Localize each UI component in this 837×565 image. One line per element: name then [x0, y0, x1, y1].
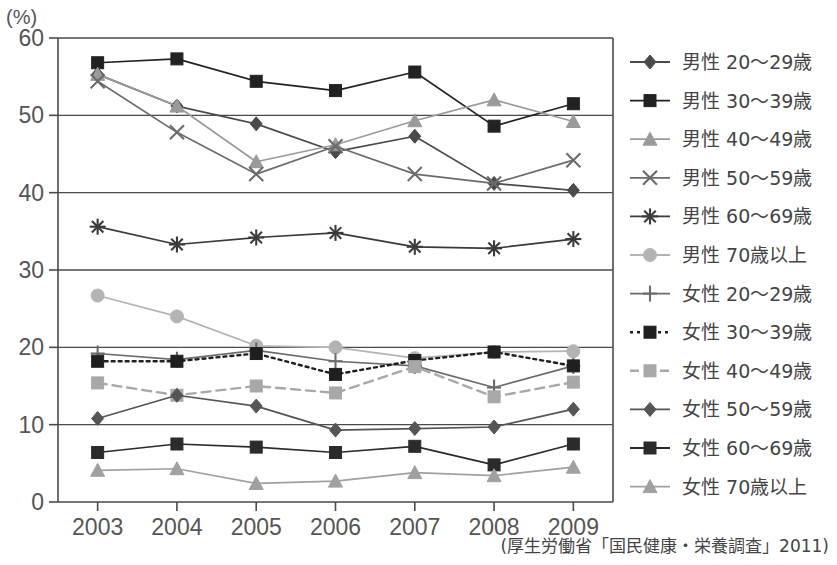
marker-asterisk: [565, 231, 581, 247]
y-tick-label-10: 10: [18, 412, 44, 438]
legend-item-4[interactable]: 男性 60〜69歳: [630, 205, 812, 227]
marker-square: [409, 361, 421, 373]
x-tick-label-2003: 2003: [72, 514, 123, 540]
marker-square: [488, 391, 500, 403]
marker-triangle: [487, 93, 501, 106]
y-tick-label-60: 60: [18, 25, 44, 51]
legend-item-0[interactable]: 男性 20〜29歳: [630, 51, 812, 73]
marker-circle: [329, 341, 342, 354]
marker-square: [250, 380, 262, 392]
marker-square: [644, 365, 656, 377]
marker-diamond: [92, 411, 104, 425]
series-1: [92, 53, 580, 132]
marker-square: [250, 441, 262, 453]
marker-square: [330, 85, 342, 97]
marker-asterisk: [642, 208, 658, 224]
legend-item-5[interactable]: 男性 70歳以上: [630, 244, 807, 266]
marker-diamond: [567, 402, 579, 416]
marker-asterisk: [169, 236, 185, 252]
marker-square: [250, 348, 262, 360]
marker-diamond: [567, 183, 579, 197]
marker-square: [330, 368, 342, 380]
marker-square: [330, 447, 342, 459]
legend-item-label: 女性 30〜39歳: [682, 321, 812, 343]
marker-asterisk: [90, 219, 106, 235]
series-10: [92, 438, 580, 471]
x-tick-label-2005: 2005: [231, 514, 282, 540]
series-11: [91, 460, 581, 489]
marker-square: [171, 53, 183, 65]
marker-asterisk: [328, 225, 344, 241]
legend: 男性 20〜29歳男性 30〜39歳男性 40〜49歳男性 50〜59歳男性 6…: [630, 51, 812, 498]
x-tick-label-2004: 2004: [151, 514, 202, 540]
marker-circle: [644, 249, 657, 262]
legend-item-2[interactable]: 男性 40〜49歳: [630, 128, 812, 150]
source-note: (厚生労働省「国民健康・栄養調査」2011): [500, 536, 829, 556]
chart-container: 0102030405060 20032004200520062007200820…: [0, 0, 837, 565]
marker-plus: [643, 286, 657, 302]
marker-square: [330, 387, 342, 399]
legend-item-label: 女性 20〜29歳: [682, 283, 812, 305]
marker-circle: [91, 289, 104, 302]
marker-diamond: [409, 129, 421, 143]
marker-square: [92, 447, 104, 459]
y-tick-label-20: 20: [18, 334, 44, 360]
marker-diamond: [488, 420, 500, 434]
marker-circle: [567, 345, 580, 358]
legend-item-3[interactable]: 男性 50〜59歳: [630, 167, 812, 189]
marker-square: [409, 66, 421, 78]
marker-square: [644, 95, 656, 107]
marker-square: [250, 75, 262, 87]
legend-item-10[interactable]: 女性 60〜69歳: [630, 437, 812, 459]
marker-asterisk: [486, 240, 502, 256]
y-tick-label-50: 50: [18, 102, 44, 128]
marker-square: [567, 360, 579, 372]
marker-square: [171, 438, 183, 450]
legend-item-label: 女性 50〜59歳: [682, 398, 812, 420]
marker-square: [567, 438, 579, 450]
marker-square: [171, 355, 183, 367]
marker-diamond: [409, 422, 421, 436]
legend-item-6[interactable]: 女性 20〜29歳: [630, 283, 812, 305]
legend-item-label: 女性 40〜49歳: [682, 360, 812, 382]
marker-square: [644, 326, 656, 338]
legend-item-9[interactable]: 女性 50〜59歳: [630, 398, 812, 420]
marker-diamond: [644, 402, 656, 416]
marker-square: [92, 377, 104, 389]
y-tick-label-0: 0: [31, 489, 44, 515]
legend-item-label: 男性 30〜39歳: [682, 90, 812, 112]
x-tick-label-2007: 2007: [389, 514, 440, 540]
legend-item-label: 男性 70歳以上: [682, 244, 807, 266]
marker-square: [567, 98, 579, 110]
marker-asterisk: [407, 239, 423, 255]
marker-diamond: [250, 399, 262, 413]
legend-item-1[interactable]: 男性 30〜39歳: [630, 90, 812, 112]
x-tick-label-2006: 2006: [310, 514, 361, 540]
legend-item-7[interactable]: 女性 30〜39歳: [630, 321, 812, 343]
y-axis-unit-label: (%): [6, 6, 37, 28]
marker-square: [644, 442, 656, 454]
legend-item-label: 男性 20〜29歳: [682, 51, 812, 73]
series-4: [90, 219, 582, 257]
marker-diamond: [644, 55, 656, 69]
legend-item-label: 女性 60〜69歳: [682, 437, 812, 459]
y-tick-label-40: 40: [18, 180, 44, 206]
y-axis-labels: 0102030405060: [18, 25, 44, 515]
marker-triangle: [566, 460, 580, 473]
marker-asterisk: [248, 230, 264, 246]
y-tick-label-30: 30: [18, 257, 44, 283]
line-chart-svg: 0102030405060 20032004200520062007200820…: [0, 0, 837, 565]
marker-square: [92, 355, 104, 367]
marker-square: [567, 376, 579, 388]
legend-item-8[interactable]: 女性 40〜49歳: [630, 360, 812, 382]
legend-item-label: 女性 70歳以上: [682, 476, 807, 498]
marker-cross: [566, 153, 580, 167]
marker-diamond: [250, 117, 262, 131]
legend-item-11[interactable]: 女性 70歳以上: [630, 476, 807, 498]
marker-cross: [249, 167, 263, 181]
marker-plus: [329, 353, 343, 369]
marker-square: [409, 440, 421, 452]
marker-circle: [170, 310, 183, 323]
marker-cross: [170, 125, 184, 139]
legend-item-label: 男性 60〜69歳: [682, 205, 812, 227]
